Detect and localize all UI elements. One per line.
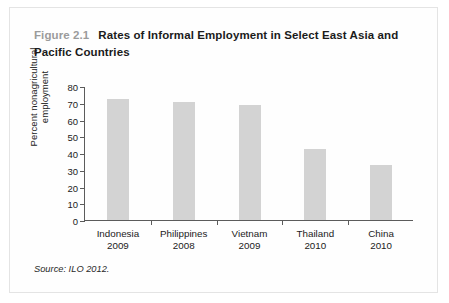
x-axis-category-label: Philippines2008 — [160, 228, 207, 252]
axes: 01020304050607080Indonesia2009Philippine… — [84, 87, 413, 221]
y-axis-tick-label: 80 — [67, 82, 78, 93]
figure-panel: Figure 2.1Rates of Informal Employment i… — [9, 7, 438, 293]
x-axis-tick — [151, 220, 152, 225]
y-axis-tick — [80, 104, 85, 105]
x-axis-category-year: 2010 — [368, 240, 394, 252]
source-note: Source: ILO 2012. — [34, 264, 109, 274]
y-axis-tick-label: 10 — [67, 199, 78, 210]
y-axis-tick — [80, 221, 85, 222]
y-axis-tick-label: 20 — [67, 182, 78, 193]
x-axis-category-name: Thailand — [297, 228, 335, 240]
y-axis-tick — [80, 137, 85, 138]
x-axis-category-year: 2009 — [232, 240, 268, 252]
y-axis-tick — [80, 87, 85, 88]
x-axis-tick — [217, 220, 218, 225]
y-axis-tick-label: 30 — [67, 165, 78, 176]
x-axis-tick — [348, 220, 349, 225]
x-axis-category-label: Vietnam2009 — [232, 228, 268, 252]
bar — [304, 149, 326, 220]
x-axis-category-label: Thailand2010 — [297, 228, 335, 252]
y-axis-tick — [80, 171, 85, 172]
bar — [173, 102, 195, 220]
y-axis-tick — [80, 154, 85, 155]
y-axis-tick-label: 70 — [67, 98, 78, 109]
x-axis-category-name: Vietnam — [232, 228, 268, 240]
x-axis-category-name: Philippines — [160, 228, 207, 240]
x-axis-category-name: Indonesia — [97, 228, 140, 240]
bar — [370, 165, 392, 220]
x-axis-category-label: Indonesia2009 — [97, 228, 140, 252]
x-axis-category-name: China — [368, 228, 394, 240]
y-axis-tick — [80, 204, 85, 205]
chart-plot-area: Percent nonagricultural employment 01020… — [10, 8, 439, 294]
y-axis-label: Percent nonagricultural employment — [28, 22, 50, 172]
y-axis-tick-label: 60 — [67, 115, 78, 126]
y-axis-tick-label: 50 — [67, 132, 78, 143]
x-axis-tick — [282, 220, 283, 225]
y-axis-tick-label: 40 — [67, 149, 78, 160]
x-axis-category-year: 2010 — [297, 240, 335, 252]
bar — [239, 105, 261, 220]
y-axis-tick — [80, 188, 85, 189]
x-axis-category-year: 2008 — [160, 240, 207, 252]
y-axis-tick-label: 0 — [73, 216, 78, 227]
x-axis-category-year: 2009 — [97, 240, 140, 252]
bar — [107, 99, 129, 220]
y-axis-tick — [80, 121, 85, 122]
x-axis-category-label: China2010 — [368, 228, 394, 252]
